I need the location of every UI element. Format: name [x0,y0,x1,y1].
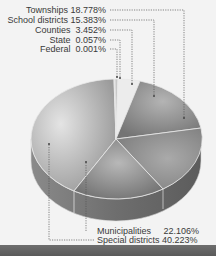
pie-top [31,79,202,199]
bottom-band [0,245,216,256]
label-value: 3.452% [75,25,106,35]
label-value: 0.001% [75,44,106,54]
label-name: Counties [35,25,71,35]
label-name: Townships [26,5,68,15]
label-name: School districts [7,15,68,25]
label-name: Special districts [97,235,160,245]
label-value: 18.778% [70,5,106,15]
label-value: 40.223% [162,235,198,245]
label-value: 15.383% [70,15,106,25]
label-counties: Counties 3.452% [35,25,106,35]
pie-chart [0,0,216,256]
label-name: Federal [40,44,71,54]
label-special-districts: Special districts 40.223% [97,235,198,245]
label-federal: Federal 0.001% [40,44,106,54]
label-townships: Townships 18.778% [26,5,106,15]
label-school-districts: School districts 15.383% [7,15,106,25]
